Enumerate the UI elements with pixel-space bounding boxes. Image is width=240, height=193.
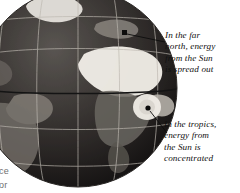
clipped-label-upper: ce xyxy=(0,166,9,176)
tropics-marker-dot xyxy=(145,105,150,110)
caption-tropics-line-2: energy from xyxy=(164,130,216,141)
caption-far-north-line-2: north, energy xyxy=(165,41,215,52)
caption-far-north-line-1: In the far xyxy=(165,30,215,41)
caption-far-north-line-3: from the Sun xyxy=(165,53,215,64)
north-marker-square xyxy=(122,30,127,35)
caption-far-north: In the far north, energy from the Sun is… xyxy=(165,30,215,75)
caption-tropics-line-1: In the tropics, xyxy=(164,119,216,130)
insolation-figure: In the far north, energy from the Sun is… xyxy=(0,0,240,193)
caption-tropics-line-3: the Sun is xyxy=(164,142,216,153)
caption-tropics: In the tropics, energy from the Sun is c… xyxy=(164,119,216,164)
clipped-label-lower: or xyxy=(0,180,7,190)
caption-tropics-line-4: concentrated xyxy=(164,153,216,164)
caption-far-north-line-4: is spread out xyxy=(165,64,215,75)
